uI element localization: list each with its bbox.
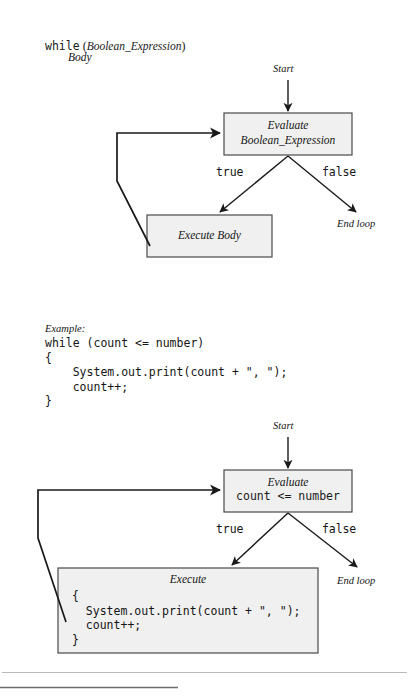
start-label-bottom: Start (273, 420, 293, 432)
false-label-bottom: false (322, 523, 356, 536)
evaluate-title-top: Evaluate (224, 119, 352, 132)
true-label-top: true (216, 166, 243, 179)
example-heading: Example: (45, 323, 85, 335)
execute-title-bottom: Execute (58, 573, 318, 586)
example-code-block: while (count <= number) { System.out.pri… (45, 336, 287, 409)
syntax-body-line: Body (68, 51, 92, 64)
end-loop-label-top: End loop (337, 218, 375, 230)
syntax-while-line: while (Boolean_Expression) (45, 36, 185, 54)
arrow-true-branch-bottom (232, 513, 288, 565)
syntax-close-paren: ) (181, 39, 185, 53)
false-label-top: false (322, 166, 356, 179)
start-label-top: Start (273, 63, 293, 75)
execute-body-label-top: Execute Body (147, 229, 272, 242)
execute-code-bottom: { System.out.print(count + ", "); count+… (72, 589, 300, 647)
syntax-expression: Boolean_Expression (87, 40, 182, 52)
evaluate-expression-bottom: count <= number (224, 490, 352, 503)
end-loop-label-bottom: End loop (337, 575, 375, 587)
figure-page: while (Boolean_Expression) Body Start Ev… (0, 0, 409, 698)
evaluate-expression-top: Boolean_Expression (224, 134, 352, 147)
evaluate-title-bottom: Evaluate (224, 476, 352, 489)
true-label-bottom: true (216, 523, 243, 536)
